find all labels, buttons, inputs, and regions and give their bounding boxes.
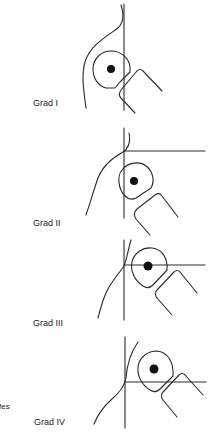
center-dot xyxy=(130,177,138,185)
contour-curve xyxy=(86,133,130,215)
panel-grad-1 xyxy=(83,4,162,113)
panel-grad-3 xyxy=(98,240,205,320)
center-dot xyxy=(144,262,153,271)
grade-label-2: Grad II xyxy=(33,218,61,228)
grade-label-1: Grad I xyxy=(33,98,58,108)
center-dot xyxy=(150,365,159,374)
contour-curve xyxy=(83,5,123,108)
contour-curve xyxy=(98,240,131,318)
panel-grad-2 xyxy=(86,128,205,235)
limb-outline xyxy=(135,194,178,235)
limb-outline xyxy=(162,374,204,418)
limb-outline xyxy=(156,271,198,316)
grading-diagram xyxy=(0,0,213,433)
panel-grad-4 xyxy=(94,337,206,428)
center-dot xyxy=(107,65,115,73)
grade-label-3: Grad III xyxy=(33,318,63,328)
edge-text-fragment: fes xyxy=(0,402,10,411)
grade-label-4: Grad IV xyxy=(34,417,65,427)
contour-curve xyxy=(94,342,138,424)
